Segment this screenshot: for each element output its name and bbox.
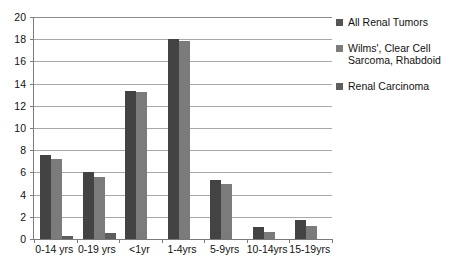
bar-group-bars (253, 17, 275, 239)
bar-groups (34, 17, 332, 239)
bar-group (162, 17, 205, 239)
y-axis-tick-label: 14 (14, 79, 26, 89)
bar (253, 227, 264, 239)
y-axis-tick-label: 6 (20, 167, 26, 177)
y-axis-tick-label: 0 (20, 234, 26, 244)
plot-area (33, 17, 332, 240)
x-axis-label: 0-14 yrs (33, 243, 76, 263)
y-axis-tick-label: 12 (14, 101, 26, 111)
bar (295, 220, 306, 239)
bar (210, 180, 221, 239)
y-axis-tick-label: 20 (14, 12, 26, 22)
legend-swatch-icon (336, 19, 343, 26)
bar-group (247, 17, 290, 239)
x-axis-labels: 0-14 yrs0-19 yrs<1yr1-4yrs5-9yrs10-14yrs… (33, 243, 331, 263)
x-axis-label: 0-19 yrs (76, 243, 119, 263)
legend-item: Renal Carcinoma (336, 80, 451, 92)
x-axis-label: 10-14yrs (246, 243, 289, 263)
bar (221, 184, 232, 240)
legend-swatch-icon (336, 83, 343, 90)
y-axis-tick-label: 4 (20, 190, 26, 200)
bar-group (119, 17, 162, 239)
legend-item-label: All Renal Tumors (348, 16, 428, 28)
bar (40, 155, 51, 239)
x-axis-label: <1yr (118, 243, 161, 263)
y-axis-tick-label: 16 (14, 56, 26, 66)
bar (105, 233, 116, 239)
bar (306, 226, 317, 239)
bar (136, 92, 147, 239)
bar (62, 236, 73, 239)
x-axis-label: 5-9yrs (203, 243, 246, 263)
bar-chart: 20181614121086420 0-14 yrs0-19 yrs<1yr1-… (0, 0, 451, 278)
bar (264, 232, 275, 239)
bar (125, 91, 136, 239)
x-axis-label: 1-4yrs (161, 243, 204, 263)
bar (51, 159, 62, 239)
bar-group-bars (125, 17, 147, 239)
bar-group-bars (168, 17, 190, 239)
y-axis-tick-label: 18 (14, 34, 26, 44)
legend-item-label: Renal Carcinoma (348, 80, 429, 92)
legend-item-label: Wilms', Clear Cell Sarcoma, Rhabdoid (348, 42, 451, 66)
bar (179, 41, 190, 239)
bar-group (77, 17, 120, 239)
x-axis-tickmark (332, 239, 333, 243)
bar-group-bars (83, 17, 116, 239)
bar-group (204, 17, 247, 239)
legend: All Renal TumorsWilms', Clear Cell Sarco… (336, 16, 451, 106)
legend-swatch-icon (336, 45, 343, 52)
bar (83, 172, 94, 239)
bar-group (34, 17, 77, 239)
y-axis-tick-label: 8 (20, 145, 26, 155)
y-axis-labels: 20181614121086420 (0, 0, 30, 278)
legend-item: All Renal Tumors (336, 16, 451, 28)
legend-item: Wilms', Clear Cell Sarcoma, Rhabdoid (336, 42, 451, 66)
bar-group (289, 17, 332, 239)
bar-group-bars (210, 17, 232, 239)
bar-group-bars (40, 17, 73, 239)
y-axis-tick-label: 2 (20, 212, 26, 222)
bar-group-bars (295, 17, 317, 239)
plot-wrapper: 20181614121086420 0-14 yrs0-19 yrs<1yr1-… (0, 0, 340, 278)
x-axis-label: 15-19yrs (288, 243, 331, 263)
y-axis-tick-label: 10 (14, 123, 26, 133)
bar (94, 177, 105, 239)
bar (168, 39, 179, 239)
